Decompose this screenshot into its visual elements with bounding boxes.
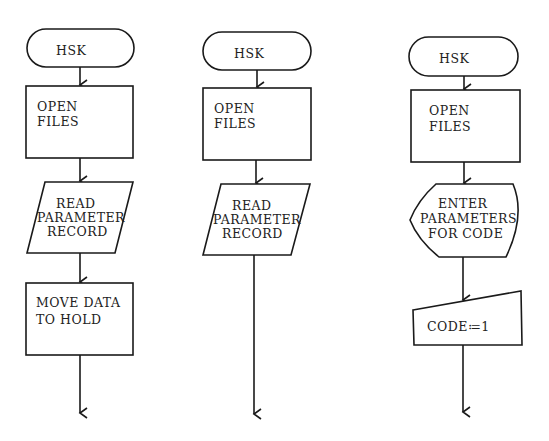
flowchart-left: HSK OPEN FILES READ PARAMETER RECORD MOV… bbox=[26, 29, 134, 413]
flowchart-middle: HSK OPEN FILES READ PARAMETER RECORD bbox=[203, 32, 311, 414]
manual-input-label: CODE≔1 bbox=[427, 319, 490, 334]
process-label-line1: OPEN bbox=[214, 101, 255, 116]
process-label-line1: OPEN bbox=[37, 99, 78, 114]
terminal-label: HSK bbox=[56, 43, 86, 58]
flowchart-canvas: HSK OPEN FILES READ PARAMETER RECORD MOV… bbox=[0, 0, 549, 441]
io-label-line1: READ bbox=[232, 198, 272, 213]
terminal-label: HSK bbox=[234, 46, 264, 61]
manual-input-code bbox=[413, 291, 522, 345]
process-label-line2: TO HOLD bbox=[36, 312, 102, 327]
io-label-line2: PARAMETER bbox=[37, 210, 125, 225]
process-label-line1: OPEN bbox=[429, 103, 470, 118]
io-label-line3: RECORD bbox=[47, 224, 108, 239]
terminal-label: HSK bbox=[439, 51, 469, 66]
io-label-line3: RECORD bbox=[222, 226, 283, 241]
io-label-line2: PARAMETER bbox=[213, 212, 301, 227]
process-label-line2: FILES bbox=[214, 116, 256, 131]
process-label-line1: MOVE DATA bbox=[36, 295, 121, 310]
process-label-line2: FILES bbox=[429, 119, 471, 134]
display-label-line1: ENTER bbox=[438, 196, 488, 211]
process-label-line2: FILES bbox=[37, 114, 79, 129]
display-label-line3: FOR CODE bbox=[428, 226, 503, 241]
io-label-line1: READ bbox=[56, 196, 96, 211]
flowchart-right: HSK OPEN FILES ENTER PARAMETERS FOR CODE… bbox=[409, 37, 522, 412]
display-label-line2: PARAMETERS bbox=[420, 211, 517, 226]
